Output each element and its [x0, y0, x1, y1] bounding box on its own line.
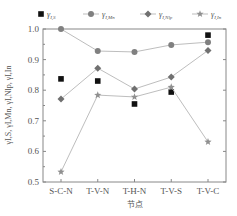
x-tick-label: T-V-C [197, 186, 219, 196]
legend-item: γI,Mn [83, 10, 115, 21]
legend-marker [88, 11, 94, 17]
legend-item: γI,Nlp [140, 10, 173, 21]
legend-marker [145, 11, 152, 18]
data-point [131, 85, 138, 92]
series-imn [58, 26, 211, 55]
data-point [204, 138, 211, 145]
legend-label: γI,S [47, 10, 56, 21]
data-point [131, 93, 138, 100]
series-line [61, 87, 208, 172]
data-point [205, 39, 211, 45]
x-tick-label: S-C-N [49, 186, 73, 196]
data-point [132, 49, 138, 55]
y-axis-title: γI,S, γI,Mn, γI,Nlp, γI,In [4, 65, 13, 145]
legend-label: γI,In [211, 10, 222, 21]
data-point [205, 47, 212, 54]
legend-marker [38, 11, 44, 17]
legend-marker [196, 10, 203, 17]
chart: γI,SγI,MnγI,NlpγI,In 0.50.60.70.80.91.0 … [0, 0, 237, 216]
legend-label: γI,Nlp [159, 10, 173, 21]
data-point [94, 91, 101, 98]
legend-item: γI,S [38, 10, 56, 21]
series-iin [57, 83, 211, 175]
y-tick-label: 0.6 [28, 146, 40, 156]
y-tick-label: 0.7 [28, 116, 40, 126]
legend-item: γI,In [192, 10, 222, 21]
legend: γI,SγI,MnγI,NlpγI,In [38, 10, 222, 21]
x-axis-title: 节点 [127, 200, 143, 209]
series-line [61, 29, 208, 52]
y-tick-label: 0.5 [28, 177, 40, 187]
data-point [132, 101, 138, 107]
data-point [58, 26, 64, 32]
x-tick-label: T-V-N [86, 186, 109, 196]
y-tick-label: 0.9 [28, 55, 40, 65]
data-point [168, 42, 174, 48]
series-layer [57, 26, 211, 175]
y-tick-label: 0.8 [28, 85, 40, 95]
data-point [168, 74, 175, 81]
data-point [58, 76, 64, 82]
y-axis: 0.50.60.70.80.91.0 [28, 24, 226, 187]
data-point [57, 168, 64, 175]
x-tick-label: T-H-N [123, 186, 147, 196]
y-tick-label: 1.0 [28, 24, 40, 34]
data-point [95, 78, 101, 84]
data-point [205, 32, 211, 38]
data-point [95, 48, 101, 54]
legend-label: γI,Mn [102, 10, 115, 21]
data-point [168, 83, 175, 90]
x-tick-label: T-V-S [161, 186, 182, 196]
